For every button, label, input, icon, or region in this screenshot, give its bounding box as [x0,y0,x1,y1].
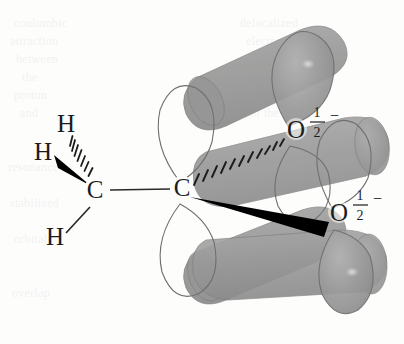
atom-label-carboxyl-carbon: C [174,174,191,201]
acetate-orbital-figure: coulombicattractionbetweentheprotonandre… [0,0,404,344]
charge-lower-numerator: 1 [357,188,364,203]
partial-charge-lower-oxygen: 1 2 − [353,188,382,223]
bond-carbon-to-hydrogen-top-hashed [70,136,93,176]
orbital-diagram-canvas: C C O O H H H 1 2 − 1 2 − [0,0,404,344]
charge-upper-sign: − [330,107,339,124]
atom-label-lower-oxygen: O [330,199,348,226]
atom-label-methyl-carbon: C [87,176,104,203]
atom-label-upper-oxygen: O [287,116,305,143]
atom-label-hydrogen-left: H [34,138,52,165]
atom-label-hydrogen-bottom: H [46,223,64,250]
charge-lower-denominator: 2 [357,208,364,223]
atom-label-hydrogen-top: H [57,110,75,137]
charge-lower-sign: − [373,190,382,207]
charge-upper-numerator: 1 [314,105,321,120]
bond-methyl-to-carboxyl-carbon [110,189,170,190]
charge-upper-denominator: 2 [314,125,321,140]
p-orbital-lobe-upper-oxygen-upper [272,32,334,126]
bond-carbon-to-hydrogen-bottom [66,207,90,233]
